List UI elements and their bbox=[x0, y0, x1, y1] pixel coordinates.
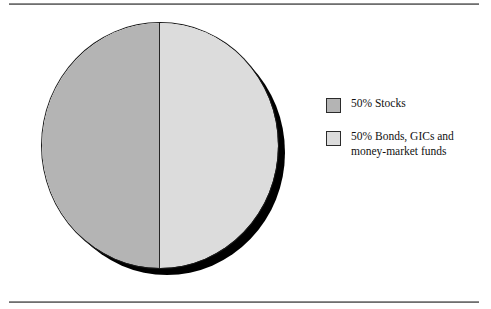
legend-item-bonds-gics-money-market[interactable]: 50% Bonds, GICs and money-market funds bbox=[326, 129, 486, 159]
bottom-rule bbox=[9, 301, 479, 303]
legend: 50% Stocks 50% Bonds, GICs and money-mar… bbox=[326, 96, 486, 175]
legend-swatch-bonds-gics-money-market bbox=[326, 131, 341, 146]
pie-slice-bonds-gics-money-market[interactable] bbox=[160, 23, 278, 268]
pie-chart-figure: 50% Stocks 50% Bonds, GICs and money-mar… bbox=[0, 0, 491, 309]
legend-item-stocks[interactable]: 50% Stocks bbox=[326, 96, 486, 113]
legend-swatch-stocks bbox=[326, 98, 341, 113]
top-rule bbox=[9, 3, 479, 5]
legend-label-stocks: 50% Stocks bbox=[351, 96, 406, 111]
pie-slice-divider bbox=[159, 23, 160, 268]
pie-slice-stocks[interactable] bbox=[42, 23, 160, 268]
pie-body bbox=[42, 23, 278, 268]
pie-chart-graphic bbox=[42, 23, 292, 281]
legend-label-bonds-gics-money-market: 50% Bonds, GICs and money-market funds bbox=[351, 129, 454, 159]
